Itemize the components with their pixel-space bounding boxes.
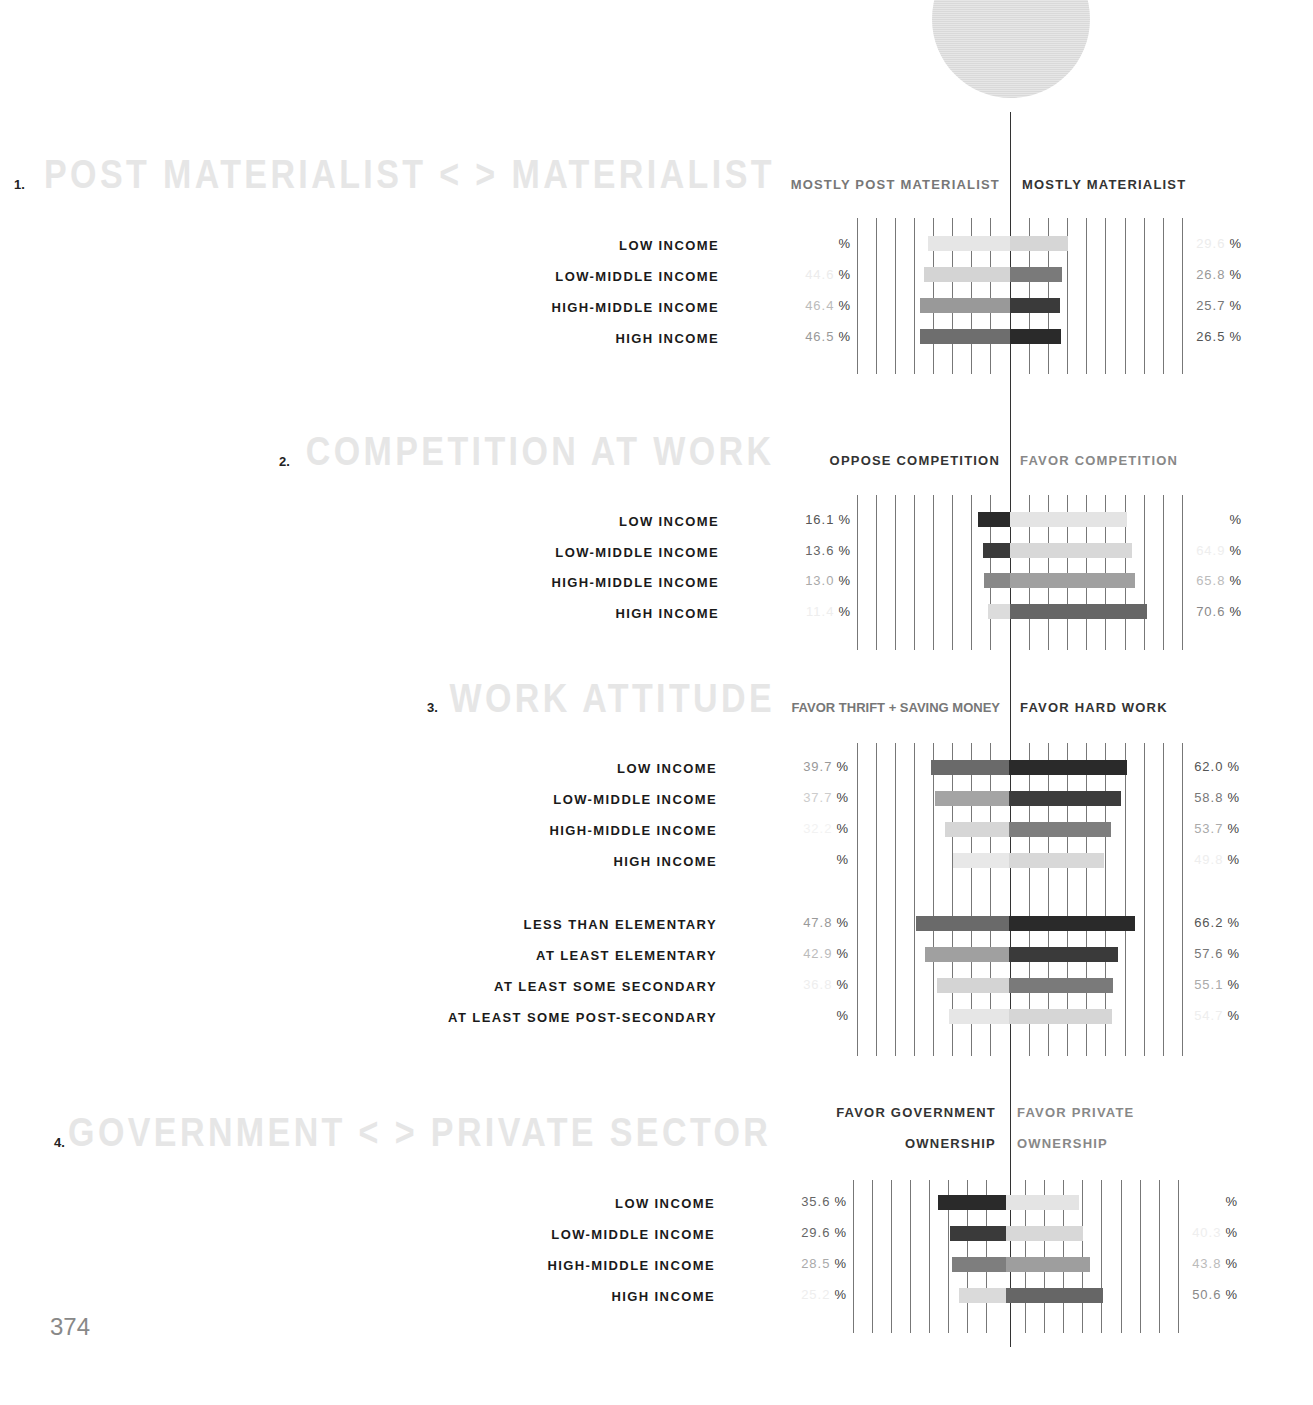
row-label: AT LEAST SOME SECONDARY bbox=[494, 979, 717, 994]
bar-left bbox=[925, 947, 1009, 962]
left-value: 47.8% bbox=[779, 915, 849, 930]
left-value: 28.5% bbox=[777, 1256, 847, 1271]
section-number: 2. bbox=[279, 454, 290, 469]
row-label: AT LEAST ELEMENTARY bbox=[536, 948, 717, 963]
bar-right bbox=[1009, 822, 1111, 837]
left-value: 32.2% bbox=[779, 821, 849, 836]
row-label: LOW INCOME bbox=[619, 238, 719, 253]
bar-right bbox=[1009, 853, 1104, 868]
right-value: 26.5% bbox=[1172, 329, 1242, 344]
left-value: 29.6% bbox=[777, 1225, 847, 1240]
left-value: 42.9% bbox=[779, 946, 849, 961]
gridline bbox=[1163, 495, 1164, 650]
right-value: 54.7% bbox=[1170, 1008, 1240, 1023]
right-column-header-line1: FAVOR PRIVATE bbox=[1017, 1105, 1134, 1120]
right-value: 62.0% bbox=[1170, 759, 1240, 774]
bar-left bbox=[953, 853, 1009, 868]
left-value: 13.6% bbox=[781, 543, 851, 558]
bar-left bbox=[952, 1257, 1006, 1272]
gridline bbox=[933, 495, 934, 650]
bar-left bbox=[916, 916, 1009, 931]
left-value: % bbox=[781, 236, 851, 251]
gridline bbox=[857, 495, 858, 650]
section-title: POST MATERIALIST < > MATERIALIST bbox=[44, 152, 775, 197]
gridline bbox=[1140, 1180, 1141, 1333]
row-label: HIGH INCOME bbox=[613, 854, 717, 869]
right-value: 57.6% bbox=[1170, 946, 1240, 961]
bar-left bbox=[935, 791, 1009, 806]
gridline bbox=[895, 218, 896, 374]
right-value: 65.8% bbox=[1172, 573, 1242, 588]
left-value: 25.2% bbox=[777, 1287, 847, 1302]
left-column-header-line2: OWNERSHIP bbox=[905, 1136, 996, 1151]
left-column-header-line1: FAVOR GOVERNMENT bbox=[836, 1105, 996, 1120]
gridline bbox=[857, 218, 858, 374]
gridline bbox=[1144, 743, 1145, 1056]
right-value: 55.1% bbox=[1170, 977, 1240, 992]
left-value: 13.0% bbox=[781, 573, 851, 588]
bar-right bbox=[1006, 1226, 1083, 1241]
left-value: 46.5% bbox=[781, 329, 851, 344]
left-value: 37.7% bbox=[779, 790, 849, 805]
bar-right bbox=[1009, 791, 1121, 806]
bar-right bbox=[1009, 1009, 1112, 1024]
gridline bbox=[1101, 1180, 1102, 1333]
right-column-header-line2: OWNERSHIP bbox=[1017, 1136, 1108, 1151]
gridline bbox=[1144, 495, 1145, 650]
left-value: 36.8% bbox=[779, 977, 849, 992]
gridline bbox=[853, 1180, 854, 1333]
row-label: LOW-MIDDLE INCOME bbox=[555, 269, 719, 284]
row-label: LOW-MIDDLE INCOME bbox=[551, 1227, 715, 1242]
gridline bbox=[914, 743, 915, 1056]
right-value: 26.8% bbox=[1172, 267, 1242, 282]
gridline bbox=[914, 218, 915, 374]
bar-left bbox=[959, 1288, 1006, 1303]
left-value: 16.1% bbox=[781, 512, 851, 527]
row-label: HIGH-MIDDLE INCOME bbox=[548, 1258, 715, 1273]
right-value: % bbox=[1168, 1194, 1238, 1209]
bar-left bbox=[937, 978, 1009, 993]
right-value: 50.6% bbox=[1168, 1287, 1238, 1302]
left-value: % bbox=[779, 1008, 849, 1023]
left-value: % bbox=[779, 852, 849, 867]
page-number: 374 bbox=[50, 1313, 90, 1341]
bar-left bbox=[945, 822, 1009, 837]
bar-right bbox=[1009, 916, 1135, 931]
left-value: 44.6% bbox=[781, 267, 851, 282]
bar-left bbox=[928, 236, 1010, 251]
gridline bbox=[1163, 743, 1164, 1056]
right-value: 53.7% bbox=[1170, 821, 1240, 836]
right-value: 64.9% bbox=[1172, 543, 1242, 558]
section-title: WORK ATTITUDE bbox=[449, 676, 775, 721]
gridline bbox=[891, 1180, 892, 1333]
row-label: LOW INCOME bbox=[617, 761, 717, 776]
row-label: LOW-MIDDLE INCOME bbox=[553, 792, 717, 807]
row-label: AT LEAST SOME POST-SECONDARY bbox=[448, 1010, 717, 1025]
right-value: 25.7% bbox=[1172, 298, 1242, 313]
bar-right bbox=[1009, 947, 1118, 962]
gridline bbox=[910, 1180, 911, 1333]
bar-right bbox=[1006, 1257, 1090, 1272]
bar-left bbox=[949, 1009, 1009, 1024]
bar-left bbox=[983, 543, 1010, 558]
row-label: LESS THAN ELEMENTARY bbox=[524, 917, 717, 932]
left-column-header: FAVOR THRIFT + SAVING MONEY bbox=[791, 700, 1000, 715]
row-label: LOW INCOME bbox=[619, 514, 719, 529]
row-label: HIGH INCOME bbox=[615, 606, 719, 621]
right-value: 29.6% bbox=[1172, 236, 1242, 251]
bar-right bbox=[1009, 760, 1127, 775]
bar-left bbox=[950, 1226, 1006, 1241]
gridline bbox=[914, 495, 915, 650]
row-label: HIGH INCOME bbox=[611, 1289, 715, 1304]
gridline bbox=[933, 743, 934, 1056]
section-title: COMPETITION AT WORK bbox=[306, 429, 775, 474]
gridline bbox=[929, 1180, 930, 1333]
row-label: LOW INCOME bbox=[615, 1196, 715, 1211]
gridline bbox=[872, 1180, 873, 1333]
right-value: 66.2% bbox=[1170, 915, 1240, 930]
right-column-header: FAVOR COMPETITION bbox=[1020, 453, 1178, 468]
row-label: HIGH-MIDDLE INCOME bbox=[550, 823, 717, 838]
gridline bbox=[895, 495, 896, 650]
gridline bbox=[895, 743, 896, 1056]
bar-right bbox=[1010, 573, 1135, 588]
